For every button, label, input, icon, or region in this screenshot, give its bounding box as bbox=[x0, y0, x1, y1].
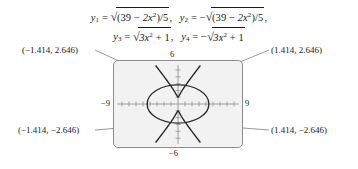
y1-radicand-mid: 2x bbox=[140, 12, 153, 23]
y2-radicand-post: )/5 bbox=[251, 12, 263, 23]
equation-line-1: y1 = √(39 − 2x2)/5, y2 = −√(39 − 2x2)/5, bbox=[0, 7, 358, 27]
y3-radical: √3x2 + 1 bbox=[133, 27, 171, 45]
xmin-label: −9 bbox=[101, 99, 110, 108]
ymin-label: −6 bbox=[169, 149, 178, 158]
equation-comma-1: , bbox=[169, 12, 172, 23]
plot-curves bbox=[113, 60, 243, 148]
y3-radicand-pre: 3x bbox=[139, 31, 149, 42]
graphing-calculator-screen bbox=[113, 60, 243, 148]
y1-radicand-post: )/5 bbox=[156, 12, 168, 23]
y3-equals: = bbox=[124, 31, 130, 42]
equation-y4: y4 = −√3x2 + 1 bbox=[181, 31, 245, 42]
equation-line-2: y3 = √3x2 + 1, y4 = −√3x2 + 1 bbox=[0, 27, 358, 47]
equation-y3: y3 = √3x2 + 1, bbox=[113, 31, 176, 42]
equation-comma-2: , bbox=[264, 12, 267, 23]
equation-comma-3: , bbox=[171, 31, 174, 42]
y2-radical: √(39 − 2x2)/5 bbox=[206, 7, 265, 25]
y4-subscript: 4 bbox=[186, 35, 190, 43]
equation-y2: y2 = −√(39 − 2x2)/5, bbox=[180, 12, 267, 23]
y1-radical: √(39 − 2x2)/5 bbox=[111, 7, 170, 25]
y4-radicand-post: + 1 bbox=[227, 31, 244, 42]
y2-radicand-mid: 2x bbox=[235, 12, 248, 23]
equation-y1: y1 = √(39 − 2x2)/5, bbox=[91, 12, 175, 23]
ymax-label: 6 bbox=[170, 50, 174, 59]
y1-radicand-pre: (39 bbox=[117, 12, 134, 23]
callout-bottom-left: (−1.414, −2.646) bbox=[18, 126, 79, 135]
y1-subscript: 1 bbox=[96, 16, 100, 24]
callout-top-right: (1.414, 2.646) bbox=[271, 46, 322, 55]
y4-radical: √3x2 + 1 bbox=[207, 27, 245, 45]
equation-block: y1 = √(39 − 2x2)/5, y2 = −√(39 − 2x2)/5,… bbox=[0, 7, 358, 46]
y1-equals: = bbox=[102, 12, 108, 23]
y3-radicand-post: + 1 bbox=[153, 31, 170, 42]
y2-subscript: 2 bbox=[185, 16, 189, 24]
y4-equals: = bbox=[192, 31, 198, 42]
figure-root: y1 = √(39 − 2x2)/5, y2 = −√(39 − 2x2)/5,… bbox=[0, 0, 358, 169]
y4-radicand-pre: 3x bbox=[213, 31, 223, 42]
y4-radicand: 3x2 + 1 bbox=[212, 27, 245, 45]
y2-equals: = bbox=[191, 12, 197, 23]
y3-subscript: 3 bbox=[118, 35, 122, 43]
y1-radicand: (39 − 2x2)/5 bbox=[116, 7, 169, 25]
y2-radicand: (39 − 2x2)/5 bbox=[211, 7, 264, 25]
y3-radicand: 3x2 + 1 bbox=[138, 27, 171, 45]
callout-bottom-right: (1.414, −2.646) bbox=[271, 126, 327, 135]
y2-radicand-pre: (39 bbox=[212, 12, 229, 23]
xmax-label: 9 bbox=[245, 99, 249, 108]
callout-top-left: (−1.414, 2.646) bbox=[22, 46, 78, 55]
